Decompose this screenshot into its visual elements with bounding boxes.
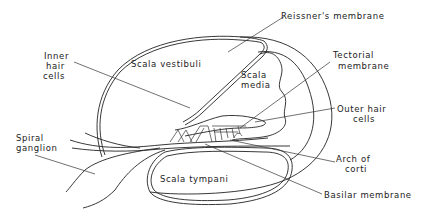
label-tectorial-1: Tectorial bbox=[332, 50, 374, 60]
spiral-ganglion-fibers bbox=[66, 133, 165, 208]
label-spiral-2: ganglion bbox=[16, 143, 58, 153]
label-scala-tympani: Scala tympani bbox=[160, 174, 228, 184]
diagram-svg: Scala vestibuli Scala media Scala tympan… bbox=[0, 0, 427, 219]
label-scala-vestibuli: Scala vestibuli bbox=[131, 59, 201, 69]
label-inner-hair-3: cells bbox=[43, 71, 65, 81]
cochlea-diagram: Scala vestibuli Scala media Scala tympan… bbox=[0, 0, 427, 219]
label-tectorial-2: membrane bbox=[338, 61, 389, 71]
label-arch-1: Arch of bbox=[336, 154, 371, 164]
label-inner-hair-1: Inner bbox=[44, 51, 69, 61]
label-reissners-membrane: Reissner's membrane bbox=[281, 11, 384, 21]
label-inner-hair-2: hair bbox=[46, 61, 65, 71]
label-basilar-membrane: Basilar membrane bbox=[324, 190, 412, 200]
label-scala-media-1: Scala bbox=[241, 70, 267, 80]
label-spiral-1: Spiral bbox=[16, 133, 44, 143]
label-scala-media-2: media bbox=[241, 80, 270, 90]
label-arch-2: corti bbox=[345, 164, 367, 174]
label-outer-hair-2: cells bbox=[353, 114, 375, 124]
label-outer-hair-1: Outer hair bbox=[337, 104, 386, 114]
